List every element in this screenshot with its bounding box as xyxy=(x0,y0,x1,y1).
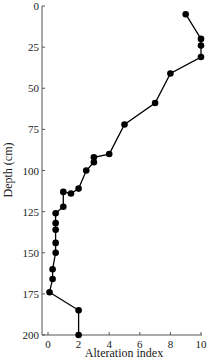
x-tick-label: 10 xyxy=(196,338,208,350)
data-point xyxy=(52,249,59,256)
data-point xyxy=(106,151,113,158)
y-tick-label: 75 xyxy=(28,123,40,135)
x-tick-label: 0 xyxy=(45,338,51,350)
data-line xyxy=(50,14,202,335)
y-axis-label: Depth (cm) xyxy=(1,143,15,198)
data-point xyxy=(60,189,67,196)
data-point xyxy=(182,11,189,18)
data-point xyxy=(121,121,128,128)
y-tick-label: 150 xyxy=(23,247,40,259)
data-point xyxy=(167,70,174,77)
data-point xyxy=(49,276,56,283)
data-point xyxy=(198,42,205,49)
data-point xyxy=(83,167,90,174)
x-axis-label: Alteration index xyxy=(85,346,163,360)
data-point xyxy=(198,36,205,43)
x-tick-label: 2 xyxy=(76,338,82,350)
y-tick-label: 200 xyxy=(23,329,40,341)
data-point xyxy=(60,203,67,210)
x-tick-label: 8 xyxy=(168,338,174,350)
depth-profile-chart: 0255075100125150175200 0246810 Alteratio… xyxy=(0,0,224,362)
data-point xyxy=(198,54,205,61)
y-tick-label: 100 xyxy=(23,165,40,177)
data-point xyxy=(152,100,159,107)
data-point xyxy=(75,185,82,192)
y-tick-label: 25 xyxy=(28,41,40,53)
data-point xyxy=(75,332,82,339)
data-point xyxy=(46,289,53,296)
data-point xyxy=(52,226,59,233)
data-point xyxy=(49,266,56,273)
y-tick-label: 175 xyxy=(23,288,40,300)
data-point xyxy=(75,307,82,314)
data-markers xyxy=(46,11,204,338)
y-tick-label: 0 xyxy=(34,0,40,12)
y-tick-label: 50 xyxy=(28,82,40,94)
data-point xyxy=(91,159,98,166)
y-axis: 0255075100125150175200 xyxy=(23,0,46,341)
data-point xyxy=(52,220,59,227)
data-point xyxy=(52,240,59,247)
data-point xyxy=(52,210,59,217)
plot-area: 0255075100125150175200 0246810 Alteratio… xyxy=(0,0,224,362)
y-tick-label: 125 xyxy=(23,206,40,218)
data-point xyxy=(68,190,75,197)
